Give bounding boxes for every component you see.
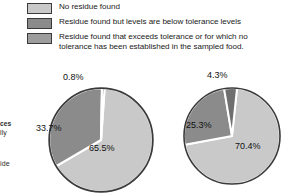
pie-left-label-exceeds-tolerance: 0.8% [63, 72, 84, 82]
pie-chart-right [182, 86, 282, 186]
pie-left-label-below-tolerance: 33.7% [36, 123, 62, 133]
pie-right-label-exceeds-tolerance: 4.3% [207, 70, 228, 80]
legend-item-exceeds-tolerance: Residue found that exceeds tolerance or … [27, 32, 303, 51]
pie-chart-left-svg [47, 86, 155, 194]
legend-label-exceeds-tolerance-line1: Residue found that exceeds tolerance or … [59, 32, 248, 41]
legend-label-below-tolerance: Residue found but levels are below toler… [59, 17, 241, 27]
legend-label-below-tolerance-line1: Residue found but levels are below toler… [59, 17, 241, 26]
pie-chart-left [47, 86, 155, 194]
legend-swatch-no-residue [27, 3, 52, 14]
pie-left-label-no-residue: 65.5% [89, 143, 115, 153]
page-bleed-text-line-1: ces [0, 120, 11, 127]
legend-label-no-residue-line1: No residue found [59, 2, 120, 11]
page-bleed-text-line-3: ide [0, 160, 10, 167]
pesticide-residue-figure: ces lly ide No residue found Residue fou… [0, 0, 306, 194]
legend-label-exceeds-tolerance-line2: tolerance has been established in the sa… [59, 42, 248, 52]
pie-right-label-no-residue: 70.4% [235, 141, 261, 151]
legend-swatch-exceeds-tolerance [27, 33, 52, 44]
legend-swatch-below-tolerance [27, 18, 52, 29]
pie-right-label-below-tolerance: 25.3% [186, 120, 212, 130]
legend-label-no-residue: No residue found [59, 2, 120, 12]
legend-item-below-tolerance: Residue found but levels are below toler… [27, 17, 303, 29]
legend-label-exceeds-tolerance: Residue found that exceeds tolerance or … [59, 32, 248, 51]
pie-chart-right-svg [182, 86, 282, 186]
chart-legend: No residue found Residue found but level… [27, 2, 303, 54]
page-bleed-text-line-2: lly [0, 129, 7, 136]
legend-item-no-residue: No residue found [27, 2, 303, 14]
